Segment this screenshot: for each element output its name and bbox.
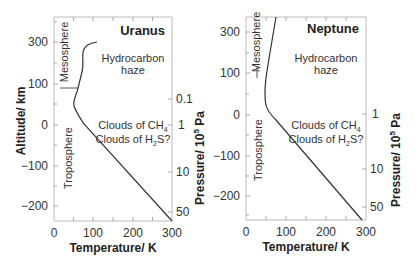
neptune-haze-label-2: haze [314, 64, 338, 76]
neptune-y-tick-100: 100 [220, 66, 240, 80]
neptune-right-ticks [362, 114, 366, 207]
neptune-x-tick-100: 100 [276, 225, 296, 239]
uranus-p-tick-0.1: 0.1 [176, 92, 193, 106]
uranus-p-tick-1: 1 [178, 118, 185, 132]
neptune-title: Neptune [307, 21, 359, 36]
neptune-p-tick-10: 10 [370, 162, 384, 176]
uranus-y-tick-m200: −200 [21, 199, 48, 213]
uranus-h2s-label: Clouds of H2S? [96, 133, 171, 147]
uranus-x-axis-title: Temperature/ K [69, 241, 156, 255]
neptune-p-tick-1: 1 [372, 107, 379, 121]
uranus-x-tick-100: 100 [83, 226, 103, 240]
uranus-p-tick-50: 50 [176, 205, 190, 219]
figure: 300 100 0 −100 −200 0 100 200 300 0.1 1 … [0, 0, 417, 263]
uranus-ch4-label: Clouds of CH4 [98, 119, 167, 133]
neptune-h2s-label: Clouds of H2S? [289, 133, 364, 147]
neptune-x-tick-300: 300 [356, 225, 376, 239]
uranus-y-tick-0: 0 [41, 118, 48, 132]
neptune-mesosphere-label: Mesosphere [250, 12, 262, 73]
uranus-haze-label-1: Hydrocarbon [102, 52, 165, 64]
uranus-x-tick-0: 0 [51, 226, 58, 240]
uranus-y-axis-title: Altitude/ km [14, 87, 28, 156]
uranus-x-tick-300: 300 [162, 226, 182, 240]
uranus-y-tick-100: 100 [28, 77, 48, 91]
neptune-panel: 300 100 0 −100 −200 0 100 200 300 1 10 5… [213, 12, 403, 254]
neptune-p-tick-50: 50 [370, 200, 384, 214]
uranus-troposphere-label: Troposphere [62, 127, 74, 189]
neptune-y2-axis-title: Pressure/ 105 Pa [388, 113, 403, 207]
uranus-mesosphere-label: Mesosphere [58, 22, 70, 83]
chart-svg: 300 100 0 −100 −200 0 100 200 300 0.1 1 … [0, 0, 417, 263]
uranus-x-tick-200: 200 [123, 226, 143, 240]
uranus-y-tick-300: 300 [28, 35, 48, 49]
uranus-right-ticks [168, 99, 172, 212]
neptune-y-tick-m200: −200 [213, 189, 240, 203]
neptune-ch4-label: Clouds of CH4 [291, 119, 360, 133]
uranus-p-tick-10: 10 [176, 165, 190, 179]
uranus-y2-axis-title: Pressure/ 105 Pa [192, 111, 207, 205]
neptune-x-axis-title: Temperature/ K [262, 240, 349, 254]
neptune-x-tick-200: 200 [316, 225, 336, 239]
uranus-title: Uranus [120, 23, 165, 38]
uranus-panel: 300 100 0 −100 −200 0 100 200 300 0.1 1 … [14, 17, 207, 255]
uranus-haze-label-2: haze [121, 64, 145, 76]
neptune-y-tick-m100: −100 [213, 149, 240, 163]
neptune-troposphere-label: Troposphere [252, 119, 264, 181]
uranus-y-tick-m100: −100 [21, 159, 48, 173]
neptune-y-tick-0: 0 [233, 108, 240, 122]
neptune-x-tick-0: 0 [243, 225, 250, 239]
neptune-y-tick-300: 300 [220, 25, 240, 39]
neptune-haze-label-1: Hydrocarbon [295, 52, 358, 64]
